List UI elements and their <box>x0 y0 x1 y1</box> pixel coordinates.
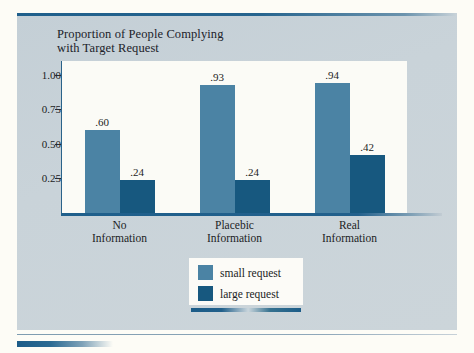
bar-group: .94.42 <box>315 61 385 213</box>
bar-value-label: .24 <box>245 166 259 178</box>
bar-small-request <box>200 85 235 214</box>
x-axis-tick-label: PlacebicInformation <box>207 219 262 245</box>
bar-value-label: .60 <box>95 116 109 128</box>
legend-swatch <box>198 286 213 301</box>
x-axis-line <box>61 213 442 216</box>
bar-large-request <box>120 180 155 213</box>
chart-title: Proportion of People Complying with Targ… <box>57 27 387 55</box>
bar-value-label: .42 <box>360 141 374 153</box>
bar-value-label: .94 <box>325 69 339 81</box>
legend-label: large request <box>220 288 279 300</box>
x-axis-tick-label-line: No <box>92 219 147 232</box>
bar-small-request <box>315 83 350 213</box>
chart-title-line-1: Proportion of People Complying <box>57 27 387 41</box>
bar-group: .60.24 <box>85 61 155 213</box>
bar-large-request <box>350 155 385 213</box>
x-axis-tick-label-line: Information <box>322 232 377 245</box>
legend-label: small request <box>220 267 281 279</box>
bar-large-request <box>235 180 270 213</box>
bar-small-request <box>85 130 120 213</box>
bar-value-label: .93 <box>210 71 224 83</box>
chart-figure-panel: Proportion of People Complying with Targ… <box>17 13 457 330</box>
legend-item[interactable]: large request <box>198 284 279 303</box>
bar-group: .93.24 <box>200 61 270 213</box>
legend-swatch <box>198 265 213 280</box>
x-axis-tick-label-line: Information <box>92 232 147 245</box>
x-axis-tick-label-line: Information <box>207 232 262 245</box>
panel-bottom-rule <box>17 334 457 335</box>
chart-legend: small requestlarge request <box>189 258 303 305</box>
x-axis-tick-label: NoInformation <box>92 219 147 245</box>
x-axis-tick-label-line: Placebic <box>207 219 262 232</box>
x-axis-tick-label: RealInformation <box>322 219 377 245</box>
panel-top-rule <box>17 13 457 16</box>
legend-item[interactable]: small request <box>198 263 281 282</box>
y-axis-ticks: 1.000.750.500.25 <box>17 13 61 223</box>
footer-gradient-bar <box>17 341 113 347</box>
legend-underline-bar <box>191 308 301 312</box>
x-axis-tick-label-line: Real <box>322 219 377 232</box>
bar-value-label: .24 <box>130 166 144 178</box>
plot-area: .60.24.93.24.94.42 <box>62 61 407 213</box>
chart-title-line-2: with Target Request <box>57 41 387 55</box>
bars-layer: .60.24.93.24.94.42 <box>62 61 407 213</box>
